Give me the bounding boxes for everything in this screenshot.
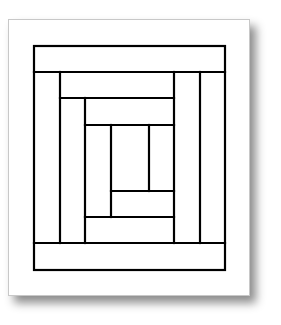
log-cabin-block-diagram	[0, 0, 281, 325]
outer-border	[34, 46, 225, 270]
